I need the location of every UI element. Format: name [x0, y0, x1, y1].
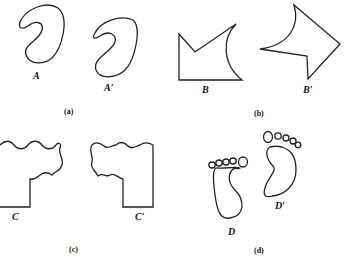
- shape-c: [0, 141, 62, 207]
- toe-d-big: [239, 157, 248, 167]
- label-b: B: [202, 84, 209, 95]
- toe-dp-5: [295, 142, 301, 148]
- toe-d-3: [223, 159, 229, 165]
- caption-c: (c): [69, 245, 78, 254]
- shape-d-prime: [264, 146, 296, 196]
- toe-d-2: [216, 160, 222, 166]
- shape-b: [179, 24, 242, 80]
- toe-dp-3: [283, 135, 289, 141]
- toe-dp-big: [264, 132, 273, 143]
- toe-d-1: [209, 162, 215, 168]
- shape-c-prime: [91, 142, 153, 207]
- label-a-prime: A′: [104, 82, 113, 93]
- caption-d: (d): [254, 246, 264, 255]
- caption-b: (b): [254, 109, 264, 118]
- toe-dp-4: [290, 138, 296, 144]
- label-b-prime: B′: [303, 84, 312, 95]
- label-c-prime: C′: [135, 211, 144, 222]
- shape-b-prime: [260, 5, 340, 79]
- label-a: A: [33, 70, 40, 81]
- figure-canvas: [0, 0, 344, 259]
- shape-a: [19, 5, 64, 63]
- toe-dp-2: [275, 133, 281, 139]
- shape-d: [213, 167, 242, 218]
- shape-a-prime: [94, 18, 138, 77]
- label-d: D: [228, 226, 235, 237]
- caption-a: (a): [64, 107, 73, 116]
- label-d-prime: D′: [275, 200, 285, 211]
- label-c: C: [12, 211, 19, 222]
- toe-d-4: [230, 158, 236, 164]
